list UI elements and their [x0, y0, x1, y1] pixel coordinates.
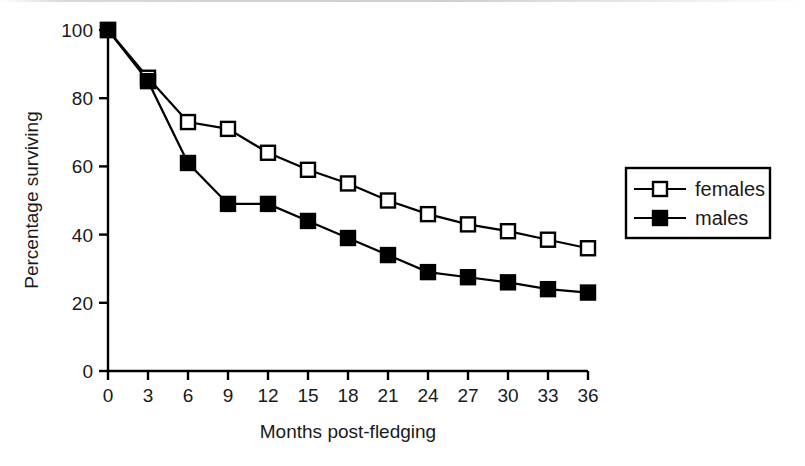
x-tick-label: 30: [497, 385, 518, 406]
data-point-males: [541, 282, 555, 296]
data-point-males: [421, 265, 435, 279]
y-tick-label: 40: [72, 225, 93, 246]
data-point-males: [221, 197, 235, 211]
data-point-males: [301, 214, 315, 228]
data-point-females: [341, 176, 355, 190]
y-axis-ticks: [99, 30, 108, 371]
x-tick-label: 27: [457, 385, 478, 406]
top-divider: [0, 0, 805, 2]
figure-canvas: 020406080100 0369121518212427303336 Mont…: [0, 0, 805, 466]
data-point-males: [581, 286, 595, 300]
x-tick-label: 36: [577, 385, 598, 406]
x-tick-label: 24: [417, 385, 439, 406]
legend-label-males: males: [695, 207, 748, 229]
data-point-females: [541, 233, 555, 247]
x-tick-label: 18: [337, 385, 358, 406]
x-tick-label: 15: [297, 385, 318, 406]
survival-curve-chart: 020406080100 0369121518212427303336 Mont…: [0, 0, 805, 466]
data-point-females: [301, 163, 315, 177]
y-tick-label: 0: [82, 361, 93, 382]
x-tick-label: 0: [103, 385, 114, 406]
data-point-females: [581, 241, 595, 255]
x-tick-label: 33: [537, 385, 558, 406]
filled-square-icon: [653, 211, 667, 225]
y-tick-label: 80: [72, 88, 93, 109]
data-point-females: [421, 207, 435, 221]
x-tick-label: 21: [377, 385, 398, 406]
y-axis-tick-labels: 020406080100: [61, 20, 93, 382]
series-line-females: [108, 30, 588, 248]
data-point-males: [141, 74, 155, 88]
x-tick-label: 6: [183, 385, 194, 406]
data-point-males: [501, 275, 515, 289]
legend-label-females: females: [695, 178, 765, 200]
x-axis-ticks: [108, 371, 588, 380]
data-point-males: [381, 248, 395, 262]
x-tick-label: 9: [223, 385, 234, 406]
series-markers: [101, 23, 595, 300]
y-tick-label: 20: [72, 293, 93, 314]
legend-item-females: females: [634, 178, 765, 200]
data-point-males: [181, 156, 195, 170]
data-point-males: [261, 197, 275, 211]
data-point-males: [101, 23, 115, 37]
data-point-females: [461, 217, 475, 231]
data-point-females: [181, 115, 195, 129]
y-tick-label: 60: [72, 156, 93, 177]
x-tick-label: 12: [257, 385, 278, 406]
data-point-females: [261, 146, 275, 160]
x-tick-label: 3: [143, 385, 154, 406]
data-point-males: [461, 270, 475, 284]
legend: females males: [626, 168, 770, 238]
y-axis-title: Percentage surviving: [21, 111, 42, 288]
x-axis-title: Months post-fledging: [260, 421, 436, 442]
data-point-females: [381, 194, 395, 208]
open-square-icon: [653, 182, 667, 196]
axes: [108, 28, 588, 371]
data-point-females: [501, 224, 515, 238]
x-axis-tick-labels: 0369121518212427303336: [103, 385, 599, 406]
data-point-males: [341, 231, 355, 245]
y-tick-label: 100: [61, 20, 93, 41]
data-point-females: [221, 122, 235, 136]
